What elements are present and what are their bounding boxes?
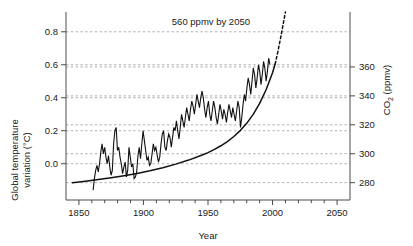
temperature-tick-label: 0.8 bbox=[45, 26, 58, 37]
co2-tick-label: 340 bbox=[359, 90, 375, 101]
co2-axis-title: CO2 (ppmv) bbox=[381, 65, 394, 115]
x-tick-label: 1850 bbox=[68, 207, 89, 218]
x-tick-label: 2050 bbox=[327, 207, 348, 218]
temperature-axis-title-line2: variation (°C) bbox=[21, 132, 32, 188]
temperature-axis-title-line1: Global temperature bbox=[9, 119, 20, 200]
co2-projection-annotation: 560 ppmv by 2050 bbox=[172, 16, 250, 27]
temperature-tick-label: 0.4 bbox=[45, 92, 58, 103]
x-tick-label: 1900 bbox=[133, 207, 154, 218]
x-axis-title: Year bbox=[198, 230, 217, 241]
temperature-tick-label: 0.2 bbox=[45, 125, 58, 136]
co2-tick-label: 280 bbox=[359, 177, 375, 188]
x-tick-label: 1950 bbox=[197, 207, 218, 218]
temperature-tick-label: 0.0 bbox=[45, 158, 58, 169]
x-tick-label: 2000 bbox=[262, 207, 283, 218]
climate-chart-figure: 18501900195020002050 280300320340360 0.0… bbox=[0, 0, 413, 246]
temperature-tick-label: 0.6 bbox=[45, 59, 58, 70]
co2-tick-label: 300 bbox=[359, 148, 375, 159]
chart-canvas: 18501900195020002050 280300320340360 0.0… bbox=[0, 0, 413, 246]
co2-tick-label: 320 bbox=[359, 119, 375, 130]
co2-tick-label: 360 bbox=[359, 61, 375, 72]
